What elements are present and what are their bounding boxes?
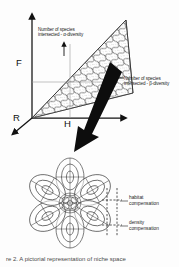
density-compensation-line2: compensation [129,226,159,232]
axis-label-f: F [16,57,22,68]
habitat-compensation-line2: compensation [129,201,159,207]
rosette-core [59,193,81,213]
species-wedge [28,14,140,126]
axis-label-h: H [64,118,71,129]
axis-label-r: R [13,112,20,123]
compensation-leaders [120,201,128,226]
wedge-ellipse-fill [28,14,140,126]
rosette-diagram [24,158,116,248]
density-compensation-label: density compensation [129,220,159,231]
figure-caption: re 2. A pictorial representation of nich… [0,256,179,267]
figure-container: F H R Number of species intersected - α-… [0,0,179,267]
habitat-compensation-label: habitat compensation [129,195,159,206]
